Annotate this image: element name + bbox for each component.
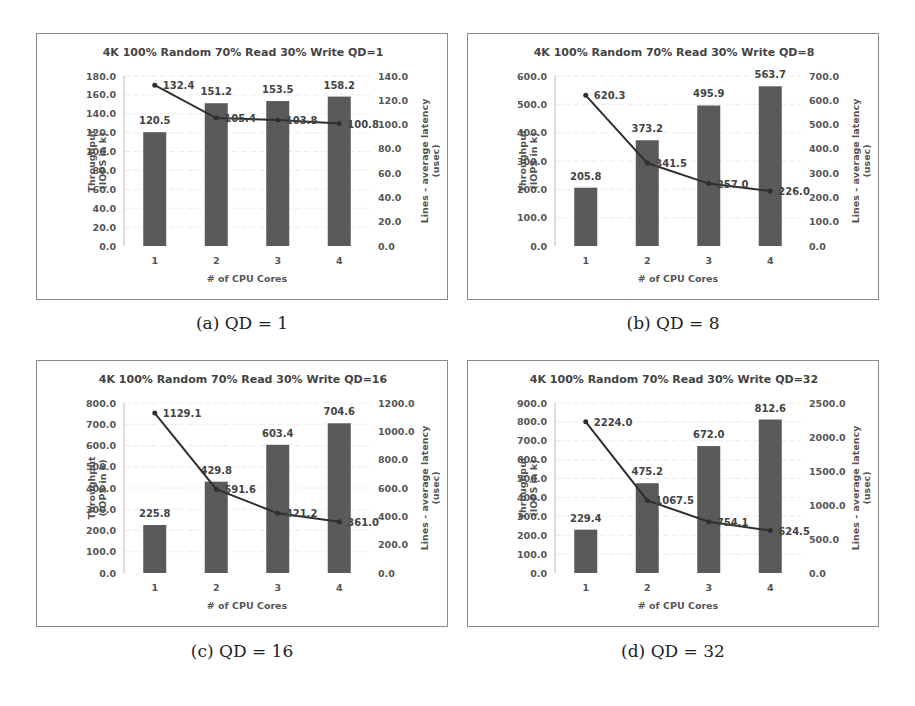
- y2-tick-label: 40.0: [378, 192, 402, 203]
- latency-value-label: 421.2: [286, 508, 318, 519]
- latency-marker: [214, 116, 219, 121]
- y-axis-label: Throughput(IOPS in k): [517, 129, 539, 192]
- latency-value-label: 2224.0: [594, 417, 633, 428]
- y2-tick-label: 20.0: [378, 216, 402, 227]
- latency-value-label: 226.0: [778, 186, 810, 197]
- y2-tick-label: 120.0: [378, 95, 408, 106]
- latency-line: [586, 95, 771, 191]
- bar-value-label: 603.4: [262, 428, 294, 439]
- latency-marker: [583, 93, 588, 98]
- y2-tick-label: 800.0: [378, 454, 408, 465]
- chart-panel-b: 4K 100% Random 70% Read 30% Write QD=80.…: [467, 33, 879, 300]
- latency-marker: [645, 161, 650, 166]
- latency-value-label: 341.5: [655, 158, 687, 169]
- bar-value-label: 158.2: [323, 80, 355, 91]
- y-tick-label: 0.0: [99, 241, 116, 252]
- x-tick-label: 4: [767, 255, 774, 266]
- y-tick-label: 700.0: [517, 435, 547, 446]
- chart-panel-d: 4K 100% Random 70% Read 30% Write QD=320…: [467, 360, 879, 627]
- throughput-bar: [759, 86, 782, 246]
- latency-value-label: 132.4: [163, 80, 195, 91]
- y-tick-label: 500.0: [517, 99, 547, 110]
- y2-tick-label: 100.0: [809, 216, 839, 227]
- throughput-bar: [205, 103, 228, 246]
- x-tick-label: 3: [274, 582, 281, 593]
- y2-tick-label: 1000.0: [378, 426, 415, 437]
- latency-value-label: 591.6: [224, 484, 256, 495]
- y2-tick-label: 1500.0: [809, 466, 846, 477]
- y2-axis-label: Lines - average latency(usec): [850, 425, 872, 550]
- x-tick-label: 2: [213, 255, 220, 266]
- y2-axis-label: Lines - average latency(usec): [419, 425, 441, 550]
- throughput-bar: [636, 140, 659, 246]
- throughput-bar: [205, 482, 228, 573]
- y2-tick-label: 200.0: [378, 539, 408, 550]
- y-tick-label: 600.0: [86, 440, 116, 451]
- x-tick-label: 2: [213, 582, 220, 593]
- throughput-bar: [574, 188, 597, 246]
- y-axis-label: Throughput(IOPS in k): [86, 129, 108, 192]
- latency-marker: [645, 498, 650, 503]
- y-tick-label: 100.0: [86, 546, 116, 557]
- bar-value-label: 205.8: [570, 171, 602, 182]
- throughput-bar: [143, 525, 166, 573]
- latency-value-label: 1129.1: [163, 408, 202, 419]
- latency-value-label: 1067.5: [655, 495, 694, 506]
- y-tick-label: 20.0: [93, 222, 117, 233]
- x-tick-label: 1: [582, 582, 589, 593]
- y2-tick-label: 500.0: [809, 534, 839, 545]
- bar-value-label: 151.2: [200, 86, 232, 97]
- latency-marker: [768, 528, 773, 533]
- throughput-bar: [697, 105, 720, 246]
- y2-tick-label: 0.0: [809, 241, 826, 252]
- y2-tick-label: 700.0: [809, 71, 839, 82]
- y2-tick-label: 140.0: [378, 71, 408, 82]
- latency-line: [155, 413, 340, 522]
- y-tick-label: 100.0: [517, 549, 547, 560]
- y-tick-label: 800.0: [86, 398, 116, 409]
- latency-marker: [768, 189, 773, 194]
- bar-value-label: 475.2: [631, 466, 663, 477]
- y-tick-label: 160.0: [86, 89, 116, 100]
- throughput-bar: [574, 530, 597, 573]
- y2-tick-label: 300.0: [809, 168, 839, 179]
- latency-value-label: 620.3: [594, 90, 626, 101]
- caption-b: (b) QD = 8: [467, 313, 879, 333]
- y2-tick-label: 500.0: [809, 119, 839, 130]
- y2-tick-label: 0.0: [378, 568, 395, 579]
- bar-value-label: 563.7: [754, 69, 786, 80]
- bar-value-label: 495.9: [693, 88, 725, 99]
- y2-tick-label: 100.0: [378, 119, 408, 130]
- latency-marker: [152, 83, 157, 88]
- throughput-bar: [328, 423, 351, 573]
- x-axis-label: # of CPU Cores: [638, 273, 719, 284]
- y-axis-label: Throughput(IOPS in k): [86, 456, 108, 519]
- y-tick-label: 40.0: [93, 203, 117, 214]
- y2-tick-label: 60.0: [378, 168, 402, 179]
- y-tick-label: 140.0: [86, 108, 116, 119]
- throughput-bar: [697, 446, 720, 573]
- chart-title: 4K 100% Random 70% Read 30% Write QD=16: [99, 373, 388, 386]
- x-tick-label: 3: [274, 255, 281, 266]
- latency-marker: [337, 121, 342, 126]
- y-tick-label: 0.0: [99, 568, 116, 579]
- chart-title: 4K 100% Random 70% Read 30% Write QD=1: [103, 46, 384, 59]
- chart-panel-a: 4K 100% Random 70% Read 30% Write QD=10.…: [36, 33, 448, 300]
- chart-svg: 4K 100% Random 70% Read 30% Write QD=160…: [37, 361, 449, 628]
- x-tick-label: 1: [582, 255, 589, 266]
- y-axis-label: Throughput(IOPS in k): [517, 456, 539, 519]
- latency-value-label: 100.8: [347, 119, 379, 130]
- y2-tick-label: 1200.0: [378, 398, 415, 409]
- latency-value-label: 103.8: [286, 115, 318, 126]
- y-tick-label: 800.0: [517, 416, 547, 427]
- bar-value-label: 812.6: [754, 403, 786, 414]
- y2-tick-label: 600.0: [378, 483, 408, 494]
- latency-marker: [152, 411, 157, 416]
- y2-tick-label: 2500.0: [809, 398, 846, 409]
- y-tick-label: 700.0: [86, 419, 116, 430]
- latency-value-label: 361.0: [347, 517, 379, 528]
- latency-marker: [214, 487, 219, 492]
- y2-tick-label: 400.0: [378, 511, 408, 522]
- y2-tick-label: 2000.0: [809, 432, 846, 443]
- latency-marker: [275, 511, 280, 516]
